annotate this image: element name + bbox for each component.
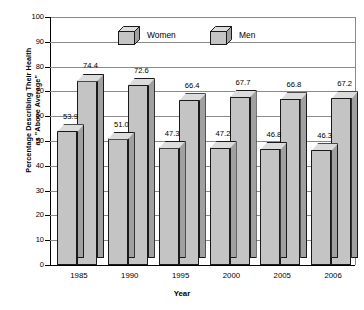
- y-axis-tick-label: 40: [20, 162, 44, 170]
- bar-value-label: 67.2: [331, 80, 359, 88]
- y-axis-tick-label: 50: [20, 137, 44, 145]
- bar-chart: Percentage Describing Their Health as "A…: [0, 0, 364, 310]
- y-axis-tick-label: 0: [20, 261, 44, 269]
- y-axis-tick-mark: [45, 265, 50, 266]
- x-axis-tick-label: 2006: [308, 272, 359, 280]
- bar-value-label: 67.7: [229, 79, 257, 87]
- bar-side-face: [300, 92, 307, 258]
- bar-value-label: 53.9: [57, 113, 85, 121]
- x-axis-line: [50, 265, 355, 266]
- bar-women-2000: [210, 141, 230, 265]
- bar-value-label: 46.3: [311, 132, 339, 140]
- bar-value-label: 47.3: [158, 130, 186, 138]
- bar-women-1990: [108, 132, 128, 265]
- x-axis-tick-label: 1990: [104, 272, 155, 280]
- bar-side-face: [351, 91, 358, 258]
- bar-front-face: [108, 139, 128, 265]
- bar-value-label: 66.8: [280, 81, 308, 89]
- bar-value-label: 66.4: [178, 82, 206, 90]
- bar-side-face: [250, 90, 257, 258]
- cube-3d-icon: [210, 26, 232, 45]
- bar-value-label: 74.4: [77, 62, 105, 70]
- y-axis-tick-label: 100: [20, 13, 44, 21]
- bar-front-face: [210, 148, 230, 265]
- bar-women-1995: [159, 141, 179, 265]
- bar-value-label: 46.8: [260, 131, 288, 139]
- bar-front-face: [57, 131, 77, 265]
- x-axis-tick-label: 1985: [54, 272, 105, 280]
- bar-front-face: [311, 150, 331, 265]
- bar-front-face: [159, 148, 179, 265]
- bar-value-label: 51.0: [107, 121, 135, 129]
- bar-side-face: [97, 74, 104, 259]
- bar-series-container: 67.246.366.846.867.747.266.447.372.651.0…: [50, 17, 355, 265]
- bar-side-face: [280, 142, 287, 258]
- y-axis-tick-label: 30: [20, 187, 44, 195]
- bar-side-face: [179, 141, 186, 258]
- y-axis-tick-label: 80: [20, 63, 44, 71]
- bar-women-2005: [260, 142, 280, 265]
- bar-women-1985: [57, 124, 77, 265]
- x-axis-title-text: Year: [174, 289, 190, 298]
- bar-side-face: [128, 132, 135, 258]
- x-axis-tick-label: 2000: [206, 272, 257, 280]
- legend-label: Men: [237, 31, 257, 40]
- bar-side-face: [148, 78, 155, 258]
- bar-side-face: [199, 93, 206, 258]
- x-axis-title: Year: [0, 289, 364, 298]
- legend-label: Women: [145, 31, 178, 40]
- bar-value-label: 72.6: [127, 67, 155, 75]
- y-axis-tick-label: 70: [20, 87, 44, 95]
- bar-side-face: [331, 143, 338, 258]
- bar-front-face: [260, 149, 280, 265]
- bar-value-label: 47.2: [209, 130, 237, 138]
- cube-3d-icon: [118, 26, 140, 45]
- y-axis-tick-label: 10: [20, 236, 44, 244]
- y-axis-tick-label: 90: [20, 38, 44, 46]
- x-axis-tick-labels: 198519901995200020052006: [50, 272, 355, 284]
- y-axis-tick-labels: 0102030405060708090100: [18, 17, 44, 265]
- bar-side-face: [77, 124, 84, 258]
- y-axis-tick-label: 20: [20, 211, 44, 219]
- y-axis-tick-label: 60: [20, 112, 44, 120]
- x-axis-tick-label: 1995: [155, 272, 206, 280]
- bar-side-face: [230, 141, 237, 258]
- x-axis-tick-label: 2005: [257, 272, 308, 280]
- bar-women-2006: [311, 143, 331, 265]
